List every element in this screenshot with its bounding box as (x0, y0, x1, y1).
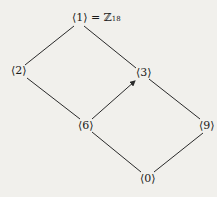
node-label: ⟨3⟩ (136, 66, 152, 79)
node-6: ⟨6⟩ (78, 120, 94, 132)
node-label: ⟨2⟩ (11, 64, 27, 77)
node-label: ⟨6⟩ (78, 119, 94, 132)
edge-6-3 (92, 81, 135, 119)
node-z18: ⟨1⟩ = ℤ18 (72, 12, 121, 25)
node-label: ⟨9⟩ (199, 119, 215, 132)
node-2: ⟨2⟩ (11, 65, 27, 77)
edge-1-2 (25, 26, 74, 65)
node-equals: = ℤ (88, 11, 112, 24)
node-9: ⟨9⟩ (199, 120, 215, 132)
edge-6-0 (92, 132, 141, 172)
node-3: ⟨3⟩ (136, 67, 152, 79)
edge-9-0 (154, 133, 203, 172)
edge-3-9 (149, 79, 200, 119)
node-subscript: 18 (112, 15, 121, 23)
edge-1-3 (84, 26, 136, 68)
node-0: ⟨0⟩ (140, 173, 156, 185)
lattice-edges (0, 0, 217, 197)
node-label: ⟨0⟩ (140, 172, 156, 185)
edge-2-6 (27, 78, 80, 119)
node-label: ⟨1⟩ (72, 11, 88, 24)
